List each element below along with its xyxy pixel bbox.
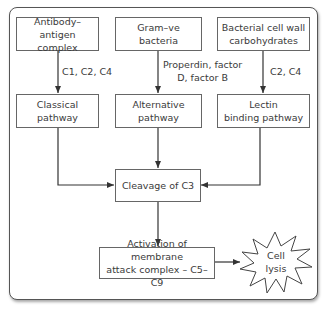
- edge-label-classical: C1, C2, C4: [62, 65, 112, 78]
- trigger-gram-box: Gram–ve bacteria: [115, 17, 202, 51]
- cell-lysis-label: Cell lysis: [262, 249, 290, 275]
- cleavage-c3-box: Cleavage of C3: [115, 169, 201, 202]
- edge-label-lectin: C2, C4: [270, 65, 301, 78]
- pathway-lectin-box: Lectin binding pathway: [217, 94, 310, 128]
- edge-label-alternative: Properdin, factor D, factor B: [163, 58, 242, 84]
- pathway-alternative-box: Alternative pathway: [115, 94, 202, 128]
- mac-activation-box: Activation of membrane attack complex – …: [99, 247, 215, 279]
- pathway-classical-box: Classical pathway: [16, 94, 99, 128]
- trigger-antibody-box: Antibody–antigen complex: [16, 17, 99, 51]
- trigger-bacterial-wall-box: Bacterial cell wall carbohydrates: [217, 17, 310, 51]
